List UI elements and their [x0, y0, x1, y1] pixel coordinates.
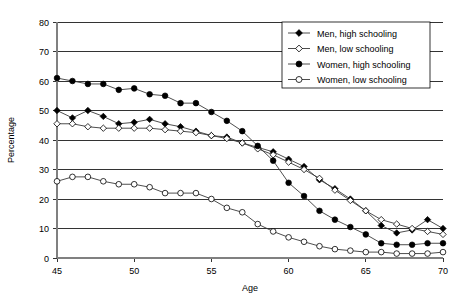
x-tick-label-65: 65 [361, 266, 371, 276]
legend-label-0: Men, high schooling [317, 29, 397, 39]
data-point-3-15 [286, 235, 292, 241]
x-axis-title: Age [242, 283, 258, 293]
data-point-1-8 [177, 128, 183, 134]
data-point-2-8 [178, 100, 184, 106]
data-point-3-17 [317, 243, 323, 249]
data-point-0-6 [146, 116, 152, 122]
legend-marker-2 [296, 61, 302, 67]
data-point-2-20 [363, 232, 369, 238]
data-point-2-4 [116, 87, 122, 93]
data-point-2-3 [101, 81, 107, 87]
y-tick-label-80: 80 [39, 18, 49, 28]
data-point-1-3 [100, 125, 106, 131]
y-tick-label-30: 30 [39, 165, 49, 175]
data-point-3-13 [255, 221, 261, 227]
x-tick-label-50: 50 [129, 266, 139, 276]
data-point-2-11 [224, 118, 230, 124]
data-point-3-16 [301, 239, 307, 245]
data-point-3-5 [131, 181, 137, 187]
y-tick-label-20: 20 [39, 195, 49, 205]
data-point-1-2 [85, 124, 91, 130]
data-point-3-25 [440, 249, 446, 255]
data-point-3-22 [394, 251, 400, 257]
data-point-1-24 [424, 228, 430, 234]
data-point-2-21 [378, 240, 384, 246]
data-point-2-1 [70, 78, 76, 84]
data-point-3-14 [270, 229, 276, 235]
data-point-1-21 [378, 216, 384, 222]
y-tick-label-50: 50 [39, 106, 49, 116]
data-point-2-16 [301, 193, 307, 199]
data-point-3-8 [178, 190, 184, 196]
x-axis-tick-labels: 455055606570 [52, 266, 448, 276]
data-point-3-1 [70, 174, 76, 180]
series-line-3 [57, 177, 443, 254]
data-point-1-7 [162, 126, 168, 132]
data-point-2-12 [239, 128, 245, 134]
data-point-2-24 [425, 240, 431, 246]
data-point-3-24 [425, 251, 431, 257]
data-point-3-4 [116, 181, 122, 187]
data-point-1-25 [440, 231, 446, 237]
series-line-2 [57, 78, 443, 245]
data-point-0-22 [393, 230, 399, 236]
data-point-1-4 [116, 125, 122, 131]
data-point-2-14 [270, 158, 276, 164]
data-point-2-10 [209, 109, 215, 115]
data-point-3-3 [101, 178, 107, 184]
data-point-2-23 [409, 242, 415, 248]
data-point-3-7 [162, 190, 168, 196]
chart-container: 01020304050607080 455055606570 Age Perce… [0, 0, 458, 301]
data-point-3-6 [147, 184, 153, 190]
data-point-2-2 [85, 81, 91, 87]
x-tick-label-60: 60 [284, 266, 294, 276]
data-point-3-21 [378, 249, 384, 255]
y-axis-title: Percentage [6, 117, 16, 163]
data-point-2-5 [131, 86, 137, 92]
data-point-0-2 [85, 107, 91, 113]
data-point-1-12 [239, 140, 245, 146]
data-point-3-2 [85, 174, 91, 180]
data-point-2-19 [348, 224, 354, 230]
legend-marker-3 [296, 77, 302, 83]
data-point-1-1 [69, 121, 75, 127]
data-point-2-9 [193, 100, 199, 106]
data-point-3-20 [363, 249, 369, 255]
data-point-2-13 [255, 143, 261, 149]
legend-label-3: Women, low schooling [317, 75, 407, 85]
y-tick-label-60: 60 [39, 77, 49, 87]
x-tick-label-70: 70 [438, 266, 448, 276]
series-line-0 [57, 111, 443, 233]
data-point-1-6 [146, 125, 152, 131]
data-point-2-7 [162, 93, 168, 99]
x-tick-label-45: 45 [52, 266, 62, 276]
data-point-2-25 [440, 240, 446, 246]
data-point-2-17 [317, 208, 323, 214]
data-point-3-19 [348, 248, 354, 254]
y-tick-label-70: 70 [39, 47, 49, 57]
y-tick-label-10: 10 [39, 224, 49, 234]
data-point-0-24 [424, 216, 430, 222]
data-point-3-11 [224, 205, 230, 211]
y-tick-label-40: 40 [39, 136, 49, 146]
line-chart: 01020304050607080 455055606570 Age Perce… [0, 0, 458, 301]
data-series [54, 75, 446, 256]
data-point-3-18 [332, 246, 338, 252]
legend-label-1: Men, low schooling [317, 44, 394, 54]
y-axis-tick-labels: 01020304050607080 [39, 18, 49, 264]
data-point-3-23 [409, 251, 415, 257]
data-point-2-18 [332, 217, 338, 223]
x-tick-label-55: 55 [206, 266, 216, 276]
y-tick-label-0: 0 [44, 254, 49, 264]
data-point-2-6 [147, 91, 153, 97]
data-point-1-5 [131, 125, 137, 131]
data-point-3-10 [209, 196, 215, 202]
legend-label-2: Women, high schooling [317, 60, 410, 70]
data-point-1-10 [208, 132, 214, 138]
data-point-2-15 [286, 180, 292, 186]
data-point-0-3 [100, 113, 106, 119]
data-point-1-0 [54, 121, 60, 127]
data-point-2-22 [394, 242, 400, 248]
data-point-3-0 [54, 178, 60, 184]
data-point-2-0 [54, 75, 60, 81]
